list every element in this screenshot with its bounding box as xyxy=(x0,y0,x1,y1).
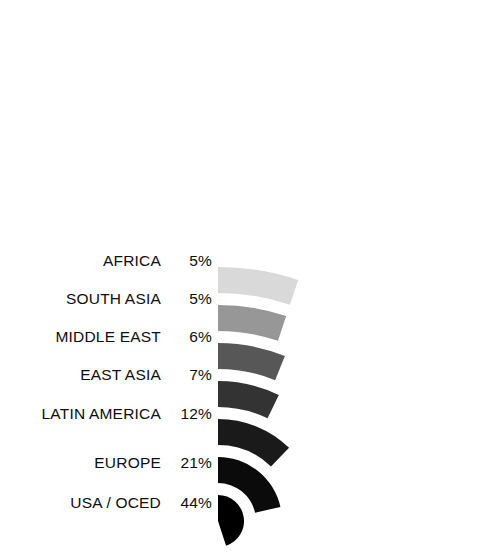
radial-bar-segment xyxy=(218,495,244,546)
radial-bar-chart: AFRICA5%SOUTH ASIA5%MIDDLE EAST6%EAST AS… xyxy=(0,0,493,557)
radial-bar-segment xyxy=(218,381,279,418)
radial-bars-svg xyxy=(0,0,493,557)
arc-group xyxy=(218,267,298,546)
radial-bar-segment xyxy=(218,305,286,341)
radial-bar-segment xyxy=(218,343,285,380)
radial-bar-segment xyxy=(218,267,298,305)
